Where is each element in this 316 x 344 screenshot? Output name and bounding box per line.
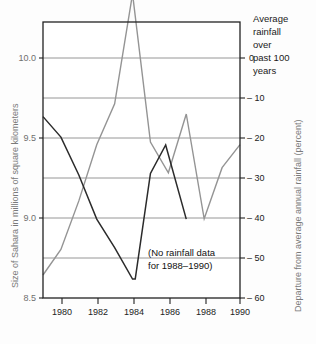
left-axis-title: Size of Sahara in millions of square kil… bbox=[10, 103, 20, 288]
left-tick-label-9.5: 9.5 bbox=[23, 133, 36, 143]
x-tick-label-1988: 1988 bbox=[196, 307, 216, 317]
average-rainfall-note-line-3: over bbox=[253, 39, 271, 50]
x-tick-label-1984: 1984 bbox=[124, 307, 144, 317]
x-tick-label-1980: 1980 bbox=[52, 307, 72, 317]
left-tick-label-9.0: 9.0 bbox=[23, 213, 36, 223]
x-tick-label-1990: 1990 bbox=[230, 307, 250, 317]
average-rainfall-note-line-2: rainfall bbox=[253, 26, 281, 37]
x-tick-label-1982: 1982 bbox=[88, 307, 108, 317]
right-axis-ticks bbox=[240, 58, 245, 298]
right-tick-label-minus20: – 20 bbox=[247, 133, 265, 143]
x-tick-label-1986: 1986 bbox=[160, 307, 180, 317]
left-tick-label-8.5: 8.5 bbox=[23, 293, 36, 303]
average-rainfall-note-line-5: years bbox=[253, 65, 276, 76]
right-axis-title: Departure from average annual rainfall (… bbox=[293, 119, 303, 312]
right-tick-label-minus60: – 60 bbox=[247, 293, 265, 303]
right-tick-label-minus10: – 10 bbox=[247, 93, 265, 103]
no-rainfall-data-note-line-2: for 1988–1990) bbox=[148, 260, 212, 271]
average-rainfall-note-line-4: past 100 bbox=[253, 52, 289, 63]
sahara-rainfall-figure: 10.0 9.5 9.0 8.5 Size of Sahara in milli… bbox=[0, 0, 316, 344]
no-rainfall-data-note-line-1: (No rainfall data bbox=[148, 247, 216, 258]
average-rainfall-note-line-1: Average bbox=[253, 13, 288, 24]
chart-canvas: 10.0 9.5 9.0 8.5 Size of Sahara in milli… bbox=[0, 0, 316, 344]
right-tick-label-minus50: – 50 bbox=[247, 253, 265, 263]
x-axis-ticks bbox=[62, 298, 240, 304]
left-tick-label-10.0: 10.0 bbox=[18, 53, 36, 63]
right-tick-label-minus30: – 30 bbox=[247, 173, 265, 183]
right-tick-label-minus40: – 40 bbox=[247, 213, 265, 223]
